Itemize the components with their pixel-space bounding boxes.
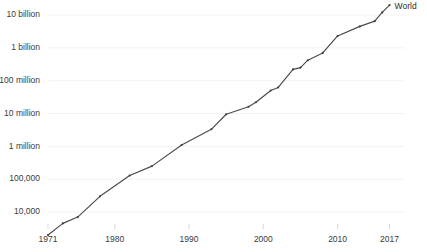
chart-background: [0, 0, 427, 252]
x-axis-label-2010: 2010: [328, 234, 347, 244]
data-point[interactable]: [255, 101, 257, 103]
x-axis-label-1990: 1990: [180, 234, 199, 244]
log-line-chart: 10,000100,0001 million10 million100 mill…: [0, 0, 427, 252]
data-point[interactable]: [277, 86, 279, 88]
data-point[interactable]: [389, 4, 391, 6]
data-point[interactable]: [151, 165, 153, 167]
data-point[interactable]: [181, 144, 183, 146]
series-label-world: World: [395, 1, 417, 11]
data-point[interactable]: [270, 90, 272, 92]
x-axis-label-2017: 2017: [380, 234, 399, 244]
x-axis-label-1980: 1980: [105, 234, 124, 244]
data-point[interactable]: [381, 11, 383, 13]
data-point[interactable]: [62, 222, 64, 224]
data-point[interactable]: [299, 67, 301, 69]
y-axis-label-100-000: 100,000: [9, 173, 40, 183]
data-point[interactable]: [225, 113, 227, 115]
chart-container: 10,000100,0001 million10 million100 mill…: [0, 0, 427, 252]
data-point[interactable]: [99, 195, 101, 197]
y-axis-label-10-000: 10,000: [14, 206, 40, 216]
data-point[interactable]: [77, 216, 79, 218]
y-axis-label-1-million: 1 million: [9, 141, 40, 151]
data-point[interactable]: [374, 20, 376, 22]
data-point[interactable]: [247, 106, 249, 108]
data-point[interactable]: [292, 68, 294, 70]
y-axis-label-1-billion: 1 billion: [11, 42, 40, 52]
data-point[interactable]: [359, 25, 361, 27]
y-axis-label-10-billion: 10 billion: [6, 9, 40, 19]
series-annotation-group: World: [395, 1, 417, 11]
data-point[interactable]: [129, 174, 131, 176]
data-point[interactable]: [322, 52, 324, 54]
data-point[interactable]: [47, 234, 49, 236]
x-axis-label-2000: 2000: [254, 234, 273, 244]
data-point[interactable]: [307, 59, 309, 61]
data-point[interactable]: [210, 128, 212, 130]
y-axis-label-100-million: 100 million: [0, 75, 40, 85]
data-point[interactable]: [337, 35, 339, 37]
y-axis-label-10-million: 10 million: [4, 108, 40, 118]
